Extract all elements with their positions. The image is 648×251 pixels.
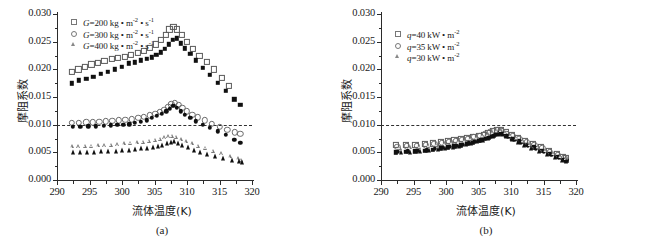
legend-marker bbox=[70, 29, 80, 38]
y-tick-label: 0.005 bbox=[5, 145, 51, 156]
y-tick-label: 0.025 bbox=[329, 35, 375, 46]
y-tick-label: 0.005 bbox=[329, 145, 375, 156]
legend-marker bbox=[394, 41, 404, 50]
legend-marker-icon bbox=[71, 42, 75, 46]
data-point bbox=[443, 145, 447, 150]
x-tick bbox=[381, 181, 382, 185]
data-point bbox=[151, 144, 155, 149]
data-point bbox=[92, 149, 96, 154]
data-point bbox=[198, 149, 202, 154]
x-tick bbox=[446, 181, 447, 185]
data-point bbox=[469, 140, 473, 145]
x-axis-title-a: 流体温度(K) bbox=[0, 202, 324, 218]
x-minor-tick bbox=[462, 181, 463, 184]
y-tick-label: 0.025 bbox=[5, 35, 51, 46]
data-point bbox=[221, 156, 225, 161]
x-minor-tick bbox=[430, 181, 431, 184]
legend-marker-icon bbox=[71, 19, 77, 25]
x-minor-tick bbox=[171, 181, 172, 184]
data-point bbox=[408, 149, 412, 154]
x-tick bbox=[414, 181, 415, 185]
panel-b: 0.0000.0050.0100.0150.0200.0250.03029029… bbox=[324, 0, 648, 251]
y-tick-label: 0.030 bbox=[5, 7, 51, 18]
data-point bbox=[516, 139, 520, 144]
x-tick bbox=[57, 181, 58, 185]
x-minor-tick bbox=[203, 181, 204, 184]
legend-label: G=400 kg • m-2 • s-1 bbox=[83, 37, 154, 53]
data-point bbox=[99, 149, 103, 154]
data-point bbox=[133, 147, 137, 152]
x-minor-tick bbox=[560, 181, 561, 184]
x-tick bbox=[122, 181, 123, 185]
data-point bbox=[78, 150, 82, 155]
legend-marker bbox=[70, 40, 80, 49]
data-point bbox=[240, 159, 244, 164]
y-tick-label: 0.000 bbox=[329, 173, 375, 184]
x-axis-line bbox=[381, 180, 578, 181]
data-point bbox=[139, 146, 143, 151]
x-tick-label: 320 bbox=[556, 186, 596, 197]
y-tick-label: 0.030 bbox=[329, 7, 375, 18]
panel-a: 0.0000.0050.0100.0150.0200.0250.03029029… bbox=[0, 0, 324, 251]
data-point bbox=[553, 154, 557, 159]
data-point bbox=[127, 147, 131, 152]
data-point bbox=[457, 143, 461, 148]
x-axis-title-b: 流体温度(K) bbox=[324, 202, 648, 218]
x-tick bbox=[155, 181, 156, 185]
x-minor-tick bbox=[138, 181, 139, 184]
data-point bbox=[71, 150, 75, 155]
x-tick-label: 320 bbox=[232, 186, 272, 197]
x-minor-tick bbox=[397, 181, 398, 184]
data-point bbox=[427, 148, 431, 153]
legend-marker-icon bbox=[71, 31, 77, 37]
x-minor-tick bbox=[527, 181, 528, 184]
data-point bbox=[186, 145, 190, 150]
y-tick-label: 0.020 bbox=[329, 62, 375, 73]
legend-marker bbox=[70, 17, 80, 26]
legend-marker-icon bbox=[395, 43, 401, 49]
x-tick bbox=[511, 181, 512, 185]
data-point bbox=[522, 143, 526, 148]
x-axis-line bbox=[57, 180, 254, 181]
data-point bbox=[176, 140, 180, 145]
data-point bbox=[564, 159, 568, 164]
x-tick bbox=[187, 181, 188, 185]
legend-marker-icon bbox=[395, 54, 399, 58]
data-point bbox=[160, 142, 164, 147]
legend-marker-icon bbox=[395, 31, 401, 37]
legend-marker bbox=[394, 52, 404, 61]
data-point bbox=[491, 133, 495, 138]
data-point bbox=[399, 150, 403, 155]
panel-caption-b: (b) bbox=[324, 224, 648, 236]
data-point bbox=[560, 157, 564, 162]
data-point bbox=[545, 151, 549, 156]
data-point bbox=[120, 148, 124, 153]
legend-label: q=30 kW • m-2 bbox=[407, 49, 459, 65]
y-axis-title-b: 摩阻系数 bbox=[338, 79, 354, 123]
x-tick bbox=[576, 181, 577, 185]
x-minor-tick bbox=[106, 181, 107, 184]
data-point bbox=[106, 148, 110, 153]
data-point bbox=[436, 147, 440, 152]
x-tick bbox=[479, 181, 480, 185]
data-point bbox=[156, 143, 160, 148]
y-tick-label: 0.020 bbox=[5, 62, 51, 73]
data-point bbox=[180, 143, 184, 148]
y-tick-label: 0.000 bbox=[5, 173, 51, 184]
x-tick bbox=[90, 181, 91, 185]
data-point bbox=[504, 134, 508, 139]
x-minor-tick bbox=[236, 181, 237, 184]
data-point bbox=[481, 137, 485, 142]
legend-b: q=40 kW • m-2q=35 kW • m-2q=30 kW • m-2 bbox=[394, 28, 459, 63]
y-axis-title-a: 摩阻系数 bbox=[14, 79, 30, 123]
data-point bbox=[213, 154, 217, 159]
legend-item: G=400 kg • m-2 • s-1 bbox=[70, 39, 154, 51]
x-minor-tick bbox=[495, 181, 496, 184]
data-point bbox=[464, 142, 468, 147]
data-point bbox=[145, 145, 149, 150]
legend-marker bbox=[394, 29, 404, 38]
data-point bbox=[114, 148, 118, 153]
x-minor-tick bbox=[73, 181, 74, 184]
x-tick bbox=[544, 181, 545, 185]
data-point bbox=[537, 149, 541, 154]
